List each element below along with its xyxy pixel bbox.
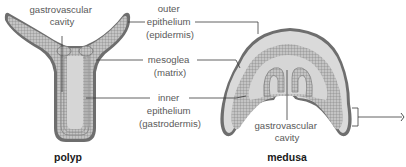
- inner-epithelium-label-line-2: epithelium: [147, 105, 191, 116]
- medusa-cavity-label-line-1: gastrovascular: [254, 120, 317, 131]
- medusa-bracket: [352, 108, 358, 126]
- cnidarian-body-plan-diagram: gastrovascular cavity gastrovascular cav…: [0, 0, 406, 167]
- medusa-cavity-label-line-2: cavity: [275, 132, 300, 143]
- polyp-mouth-lobe-right: [79, 46, 93, 56]
- inner-epithelium-label-line-1: inner: [158, 92, 180, 103]
- outer-epithelium-label-line-2: epithelium: [147, 16, 191, 27]
- medusa-title: medusa: [267, 151, 307, 163]
- inner-epithelium-label: inner epithelium (gastrodermis): [139, 92, 201, 129]
- medusa-cavity-label: gastrovascular cavity: [254, 120, 319, 143]
- mesoglea-label-line-1: mesoglea: [148, 54, 190, 65]
- outer-epithelium-leader-right: [195, 22, 258, 34]
- inner-epithelium-label-line-3: (gastrodermis): [139, 118, 201, 129]
- polyp-cavity-label: gastrovascular cavity: [29, 4, 94, 27]
- polyp-cavity-label-line-1: gastrovascular: [29, 4, 92, 15]
- outer-epithelium-label-line-1: outer: [158, 3, 181, 14]
- mesoglea-label-line-2: (matrix): [154, 67, 187, 78]
- outer-epithelium-label-line-3: (epidermis): [146, 29, 194, 40]
- polyp-gastrovascular-cavity: [67, 56, 83, 129]
- mesoglea-label: mesoglea (matrix): [148, 54, 192, 78]
- polyp-title: polyp: [54, 151, 82, 163]
- polyp-cavity-label-line-2: cavity: [50, 16, 75, 27]
- mesoglea-leader-right: [197, 60, 240, 68]
- outer-epithelium-label: outer epithelium (epidermis): [146, 3, 194, 40]
- polyp-figure: [5, 13, 130, 142]
- polyp-mouth-lobe-left: [57, 46, 71, 56]
